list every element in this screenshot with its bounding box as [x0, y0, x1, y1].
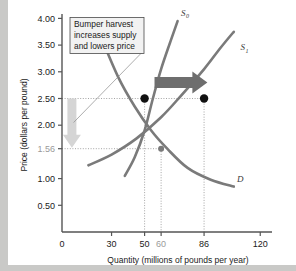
annotations-group	[63, 53, 207, 148]
x-tick-label-0: 0	[59, 239, 64, 249]
callout-line-2: increases supply	[74, 30, 137, 40]
y-tick-label-2.50: 2.50	[37, 94, 55, 104]
curve-label-D: D	[236, 174, 244, 184]
curve-D	[102, 39, 234, 187]
x-axis-title: Quantity (millions of pounds per year)	[107, 255, 248, 265]
y-tick-label-3.50: 3.50	[37, 40, 55, 50]
callout-group: Bumper harvest increases supply and lowe…	[70, 18, 144, 54]
y-tick-label-2.00: 2.00	[37, 120, 55, 130]
x-tick-label-50: 50	[140, 239, 150, 249]
x-tick-label-120: 120	[253, 239, 268, 249]
y-tick-label-4.00: 4.00	[37, 14, 55, 24]
y-tick-label-1.56: 1.56	[37, 144, 55, 154]
x-tick-label-30: 30	[107, 239, 117, 249]
curve-label-S1: S1	[240, 42, 248, 54]
figure-container: 0.501.001.562.002.503.003.504.0003050608…	[0, 0, 296, 271]
supply-demand-chart: 0.501.001.562.002.503.003.504.0003050608…	[0, 0, 296, 271]
initial-equilibrium	[140, 94, 148, 102]
price-fall-arrow	[63, 99, 81, 148]
x-tick-label-86: 86	[199, 239, 209, 249]
new-equilibrium	[158, 146, 164, 152]
curve-label-S0: S0	[181, 8, 189, 20]
callout-leader-line	[74, 53, 142, 122]
curve-labels-group: S0S1D	[181, 8, 248, 185]
y-tick-label-3.00: 3.00	[37, 67, 55, 77]
callout-line-3: and lowers price	[74, 41, 135, 51]
callout-line-1: Bumper harvest	[74, 19, 134, 29]
shifted-quantity-point	[200, 94, 208, 102]
x-tick-label-60: 60	[156, 239, 166, 249]
y-tick-label-0.50: 0.50	[37, 201, 55, 211]
y-tick-label-1.00: 1.00	[37, 174, 55, 184]
y-axis-title: Price (dollars per pound)	[19, 78, 29, 171]
